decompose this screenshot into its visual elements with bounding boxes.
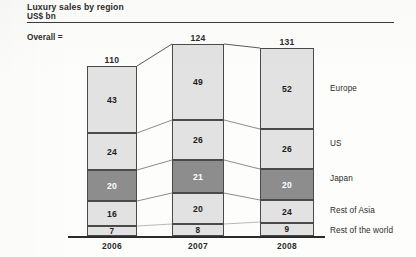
bar-segment-2008-us[interactable]: 26 <box>260 129 314 169</box>
legend-label-us: US <box>330 139 342 148</box>
bar-segment-2006-rest-of-the-world[interactable]: 7 <box>87 226 137 236</box>
bar-2006[interactable]: 43 24 20 16 7 <box>87 66 137 236</box>
bar-segment-2007-rest-of-the-world[interactable]: 8 <box>172 224 224 236</box>
bar-total-2008: 131 <box>260 37 314 47</box>
segment-value: 43 <box>107 95 117 105</box>
x-axis-tick-2008: 2008 <box>260 241 314 251</box>
segment-value: 21 <box>193 172 203 182</box>
segment-value: 16 <box>107 209 117 219</box>
bar-segment-2008-europe[interactable]: 52 <box>260 48 314 129</box>
chart-figure: Luxury sales by region US$ bn Overall = … <box>0 0 416 257</box>
segment-value: 24 <box>107 147 117 157</box>
segment-value: 49 <box>193 77 203 87</box>
bar-segment-2008-rest-of-asia[interactable]: 24 <box>260 200 314 223</box>
bar-segment-2007-rest-of-asia[interactable]: 20 <box>172 193 224 224</box>
bar-segment-2006-us[interactable]: 24 <box>87 133 137 170</box>
x-axis-tick-2006: 2006 <box>87 241 137 251</box>
segment-value: 9 <box>285 225 290 234</box>
segment-value: 8 <box>196 226 201 235</box>
bar-segment-2007-europe[interactable]: 49 <box>172 44 224 120</box>
bar-total-2006: 110 <box>87 55 137 65</box>
legend-label-rest-of-the-world: Rest of the world <box>330 226 393 235</box>
bar-2007[interactable]: 49 26 21 20 8 <box>172 44 224 236</box>
bar-segment-2007-us[interactable]: 26 <box>172 120 224 160</box>
bar-segment-2008-japan[interactable]: 20 <box>260 169 314 200</box>
segment-value: 7 <box>110 227 115 236</box>
segment-value: 20 <box>107 181 117 191</box>
segment-value: 26 <box>193 135 203 145</box>
legend-label-japan: Japan <box>330 174 353 183</box>
bar-segment-2008-rest-of-the-world[interactable]: 9 <box>260 223 314 236</box>
legend-label-rest-of-asia: Rest of Asia <box>330 206 375 215</box>
bar-segment-2006-rest-of-asia[interactable]: 16 <box>87 201 137 226</box>
x-axis-line <box>68 236 325 238</box>
bar-segment-2006-europe[interactable]: 43 <box>87 66 137 133</box>
segment-value: 52 <box>282 84 292 94</box>
segment-value: 20 <box>282 180 292 190</box>
bar-total-2007: 124 <box>172 33 224 43</box>
segment-value: 26 <box>282 144 292 154</box>
segment-value: 20 <box>193 204 203 214</box>
segment-value: 24 <box>282 207 292 217</box>
x-axis-tick-2007: 2007 <box>172 241 224 251</box>
bar-segment-2007-japan[interactable]: 21 <box>172 160 224 193</box>
bar-2008[interactable]: 52 26 20 24 9 <box>260 48 314 236</box>
bar-segment-2006-japan[interactable]: 20 <box>87 170 137 201</box>
legend-label-europe: Europe <box>330 84 357 93</box>
plot-area: 43 24 20 16 7 110 2006 49 26 <box>0 0 416 257</box>
